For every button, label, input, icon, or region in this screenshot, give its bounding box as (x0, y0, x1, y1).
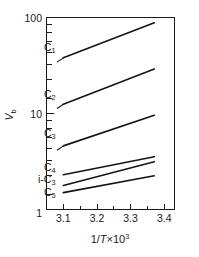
series-line-c5 (63, 176, 154, 193)
x-tick-label-34: 3.4 (157, 212, 172, 224)
series-line-c2 (63, 69, 154, 104)
curve-label-c1: C1 (44, 41, 56, 55)
x-tick-label-33: 3.3 (123, 212, 138, 224)
x-tick-label-32: 3.2 (90, 212, 105, 224)
leader-c3 (57, 146, 63, 150)
x-axis-title-exponent: 3 (125, 232, 129, 241)
plot-frame (47, 18, 175, 210)
chart-canvas: 100 10 1 3.1 3.2 3.3 3.4 Vb 1/T×103 C1 C… (0, 0, 199, 257)
y-axis-title: Vb (3, 109, 18, 120)
series-lines (63, 23, 154, 193)
y-tick-label-100: 100 (24, 12, 42, 24)
leader-c1 (57, 58, 63, 62)
series-line-c3 (63, 115, 154, 146)
label-leaders (57, 58, 63, 150)
figure-container: 100 10 1 3.1 3.2 3.3 3.4 Vb 1/T×103 C1 C… (0, 0, 199, 257)
leader-c2 (57, 104, 63, 108)
curve-label-c5: C5 (44, 186, 56, 200)
y-tick-label-1: 1 (36, 207, 42, 219)
x-axis-ticks (63, 204, 164, 210)
x-axis-title: 1/T×103 (91, 232, 130, 245)
x-tick-label-31: 3.1 (56, 212, 71, 224)
svg-text:Vb: Vb (3, 109, 18, 120)
y-tick-label-10: 10 (30, 108, 42, 120)
y-axis-title-sub: b (9, 109, 18, 113)
curve-label-c3: C3 (44, 127, 56, 141)
curve-label-c2: C2 (44, 88, 56, 102)
series-line-c1 (63, 23, 154, 58)
x-axis-title-mid: ×10 (107, 233, 126, 245)
